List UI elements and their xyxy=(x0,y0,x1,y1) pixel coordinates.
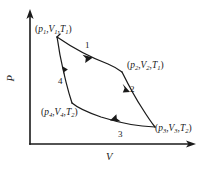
diagram-canvas xyxy=(0,0,205,172)
state-2-pressure-subscript: 2 xyxy=(135,64,138,71)
state-2-temperature-subscript: 1 xyxy=(157,64,160,71)
state-4-pressure-subscript: 4 xyxy=(49,111,52,118)
state-2-close-paren: ) xyxy=(161,60,164,70)
process-2-curve xyxy=(122,72,155,127)
process-number-3: 3 xyxy=(118,130,123,139)
state-label-4: (p4,V4,T2) xyxy=(41,108,78,118)
state-label-2: (p2,V2,T1) xyxy=(127,61,164,71)
state-3-pressure-subscript: 3 xyxy=(163,127,166,134)
process-number-4: 4 xyxy=(58,77,63,86)
process-number-2: 2 xyxy=(130,85,135,94)
state-3-temperature-subscript: 2 xyxy=(185,127,188,134)
state-1-temperature-subscript: 1 xyxy=(65,28,68,35)
state-4-volume-subscript: 4 xyxy=(60,111,63,118)
state-3-close-paren: ) xyxy=(189,123,192,133)
process-3-curve xyxy=(72,103,155,127)
x-axis-label: V xyxy=(106,152,112,163)
state-4-close-paren: ) xyxy=(75,107,78,117)
state-3-volume-subscript: 3 xyxy=(174,127,177,134)
pv-diagram-figure: P V (p1,V1,T1) (p2,V2,T1) (p3,V3,T2) (p4… xyxy=(0,0,205,172)
state-1-close-paren: ) xyxy=(69,24,72,34)
process-1-arrowhead-icon xyxy=(83,55,94,63)
state-label-3: (p3,V3,T2) xyxy=(155,124,192,134)
state-2-volume-subscript: 2 xyxy=(146,64,149,71)
process-1-curve xyxy=(57,37,122,72)
state-1-volume-subscript: 1 xyxy=(54,28,57,35)
process-number-1: 1 xyxy=(85,41,90,50)
state-1-pressure-subscript: 1 xyxy=(43,28,46,35)
state-4-temperature-subscript: 2 xyxy=(71,111,74,118)
process-3-arrowhead-icon xyxy=(110,114,121,121)
state-label-1: (p1,V1,T1) xyxy=(35,25,72,35)
y-axis-label: P xyxy=(6,75,17,81)
